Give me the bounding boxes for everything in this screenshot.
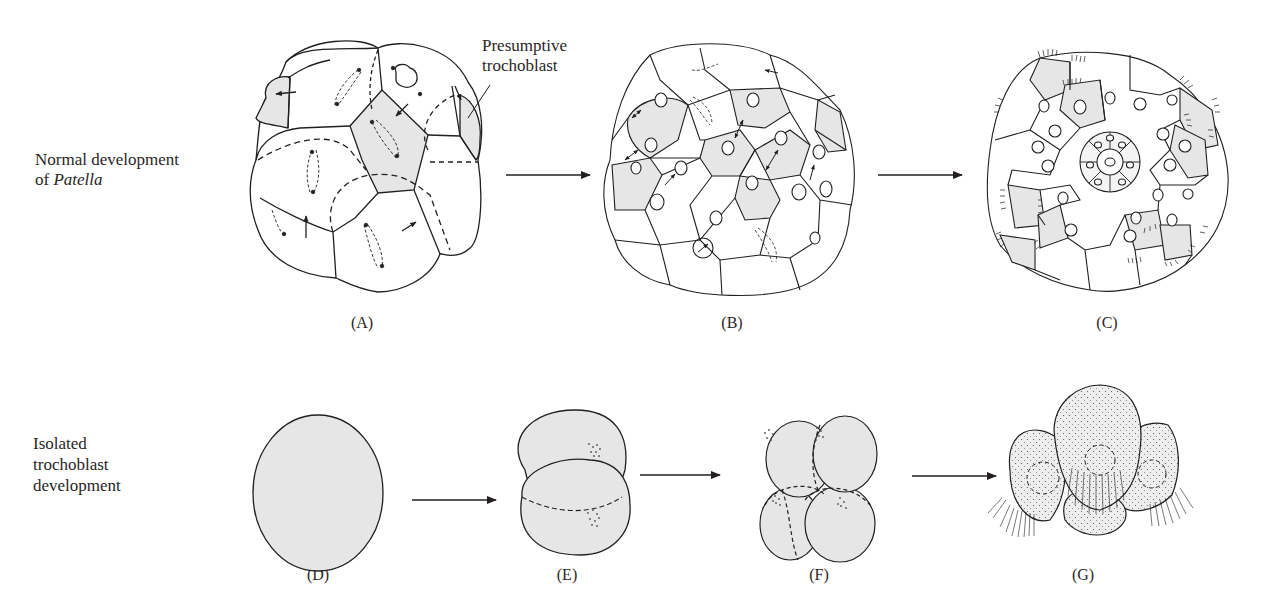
annotation-leader-line	[468, 85, 490, 118]
panel-e-cells	[518, 410, 630, 555]
panel-b-embryo	[604, 44, 854, 296]
figure-canvas	[0, 0, 1264, 608]
panel-f-cells	[760, 416, 877, 562]
panel-g-ciliated-cells	[988, 385, 1193, 537]
panel-a-embryo	[250, 41, 481, 292]
panel-d-cell	[253, 415, 383, 571]
panel-c-embryo	[987, 49, 1228, 291]
